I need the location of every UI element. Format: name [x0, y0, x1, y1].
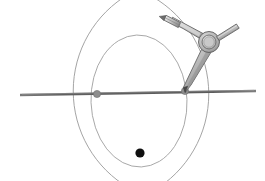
geometric-construction-figure: [0, 0, 265, 181]
compass-pivot-inner: [204, 37, 214, 47]
intersection-dot: [135, 148, 144, 157]
geometry-canvas: [0, 0, 265, 181]
left-center-point: [93, 90, 100, 97]
